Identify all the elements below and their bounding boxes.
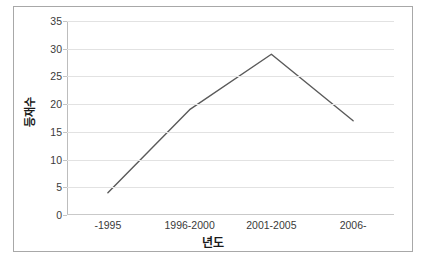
y-tick-mark bbox=[63, 49, 67, 50]
y-tick-label: 10 bbox=[36, 155, 62, 165]
y-tick-mark bbox=[63, 104, 67, 105]
gridline bbox=[67, 49, 394, 50]
y-tick-label: 25 bbox=[36, 71, 62, 81]
y-axis-tick-labels: 05101520253035 bbox=[36, 15, 62, 213]
gridline bbox=[67, 21, 394, 22]
x-tick-label: -1995 bbox=[94, 219, 121, 231]
gridline bbox=[67, 132, 394, 133]
y-tick-mark bbox=[63, 160, 67, 161]
y-tick-label: 35 bbox=[36, 16, 62, 26]
y-tick-mark bbox=[63, 132, 67, 133]
line-series bbox=[67, 21, 394, 215]
y-tick-mark bbox=[63, 187, 67, 188]
y-tick-label: 20 bbox=[36, 99, 62, 109]
x-tick-label: 2001-2005 bbox=[246, 219, 296, 231]
gridline bbox=[67, 76, 394, 77]
y-tick-mark bbox=[63, 215, 67, 216]
y-tick-label: 30 bbox=[36, 44, 62, 54]
gridline bbox=[67, 104, 394, 105]
series-line bbox=[108, 54, 353, 193]
y-tick-label: 5 bbox=[36, 182, 62, 192]
y-tick-mark bbox=[63, 21, 67, 22]
plot-area bbox=[67, 21, 394, 215]
x-axis-title: 년도 bbox=[14, 233, 412, 250]
gridline bbox=[67, 187, 394, 188]
y-tick-label: 15 bbox=[36, 127, 62, 137]
chart-figure: 등재수 05101520253035 -19951996-20002001-20… bbox=[13, 6, 413, 252]
x-tick-label: 2006- bbox=[340, 219, 367, 231]
x-tick-label: 1996-2000 bbox=[165, 219, 215, 231]
y-tick-label: 0 bbox=[36, 210, 62, 220]
y-tick-mark bbox=[63, 76, 67, 77]
gridline bbox=[67, 160, 394, 161]
